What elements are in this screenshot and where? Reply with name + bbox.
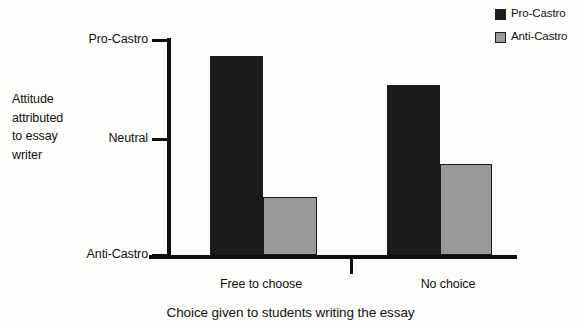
xtick-mark-group-divider (350, 259, 353, 274)
y-axis-title-line-4: writer (12, 146, 142, 165)
plot-area (167, 40, 517, 255)
bar-chart-figure: Pro-Castro Anti-Castro Pro-Castro Neutra… (0, 0, 581, 328)
xtick-label-no-choice: No choice (383, 277, 513, 291)
bar-free-to-choose-anti-castro (263, 197, 317, 255)
x-axis-spine (149, 255, 517, 259)
y-axis-title-line-2: attributed (12, 109, 142, 128)
ytick-row-anti-castro: Anti-Castro (0, 247, 148, 263)
ytick-mark-pro-castro (152, 39, 168, 42)
ytick-label-anti-castro: Anti-Castro (87, 247, 148, 261)
y-axis-title-line-1: Attitude (12, 90, 142, 109)
bar-no-choice-anti-castro (440, 164, 492, 255)
ytick-mark-neutral (152, 138, 168, 141)
bar-no-choice-pro-castro (387, 85, 440, 255)
x-axis-title: Choice given to students writing the ess… (0, 305, 581, 320)
y-axis-title: Attitude attributed to essay writer (12, 90, 142, 164)
xtick-label-free-to-choose: Free to choose (196, 277, 326, 291)
legend-label-pro-castro: Pro-Castro (511, 8, 566, 20)
bar-free-to-choose-pro-castro (210, 56, 263, 255)
legend-swatch-pro-castro (495, 9, 506, 20)
ytick-row-pro-castro: Pro-Castro (0, 32, 148, 48)
legend-label-anti-castro: Anti-Castro (511, 31, 567, 43)
y-axis-title-line-3: to essay (12, 127, 142, 146)
legend-item-pro-castro: Pro-Castro (495, 6, 581, 22)
ytick-label-pro-castro: Pro-Castro (89, 32, 148, 46)
